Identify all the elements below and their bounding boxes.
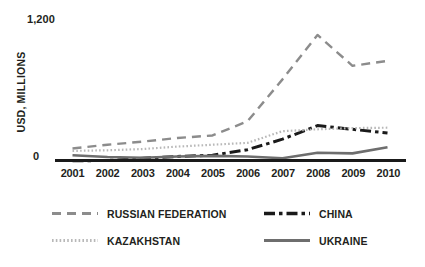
x-axis-tick-2007: 2007 (266, 167, 301, 185)
legend-line-swatch-icon (264, 208, 310, 219)
x-axis-tick-2008: 2008 (301, 167, 336, 185)
x-axis-tick-2003: 2003 (125, 167, 160, 185)
series-line-russian-federation (73, 35, 388, 148)
x-axis-tick-2009: 2009 (336, 167, 371, 185)
legend-item-ukraine[interactable]: UKRAINE (264, 235, 412, 247)
legend-line-swatch-icon (264, 235, 310, 246)
series-line-kazakhstan (73, 128, 388, 151)
x-axis-tick-2002: 2002 (90, 167, 125, 185)
series-lines (55, 14, 405, 162)
x-axis-tick-2001: 2001 (55, 167, 90, 185)
x-axis-baseline (55, 159, 406, 162)
y-axis-max-label: 1,200 (27, 13, 55, 25)
x-axis-tick-2004: 2004 (160, 167, 195, 185)
x-axis-tick-2006: 2006 (230, 167, 265, 185)
chart-legend: RUSSIAN FEDERATIONCHINAKAZAKHSTANUKRAINE (52, 200, 412, 254)
x-axis-tick-labels: 2001200220032004200520062007200820092010 (55, 167, 406, 185)
y-axis-title: USD, MILLIONS (15, 48, 27, 136)
legend-line-swatch-icon (52, 235, 98, 246)
legend-label: RUSSIAN FEDERATION (107, 208, 226, 220)
legend-item-russian-federation[interactable]: RUSSIAN FEDERATION (52, 208, 264, 220)
legend-item-kazakhstan[interactable]: KAZAKHSTAN (52, 235, 264, 247)
y-axis-zero-label: 0 (33, 150, 39, 162)
legend-label: UKRAINE (319, 235, 368, 247)
x-axis-tick-2005: 2005 (195, 167, 230, 185)
legend-item-china[interactable]: CHINA (264, 208, 412, 220)
x-axis-tick-2010: 2010 (371, 167, 406, 185)
plot-area (55, 14, 405, 162)
legend-label: KAZAKHSTAN (107, 235, 180, 247)
line-chart: 1,200 0 USD, MILLIONS 200120022003200420… (0, 0, 425, 267)
legend-label: CHINA (319, 208, 353, 220)
legend-line-swatch-icon (52, 208, 98, 219)
